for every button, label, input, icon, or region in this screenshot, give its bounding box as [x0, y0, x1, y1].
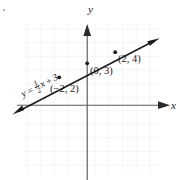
y-axis-label: y — [88, 4, 93, 15]
data-point-marker — [113, 50, 117, 54]
point-label-2-4: (2, 4) — [118, 54, 141, 65]
corner-speck — [3, 9, 5, 11]
point-label-0-3: (0, 3) — [90, 66, 113, 77]
data-point-marker — [85, 61, 89, 65]
x-axis-label: x — [171, 100, 176, 111]
